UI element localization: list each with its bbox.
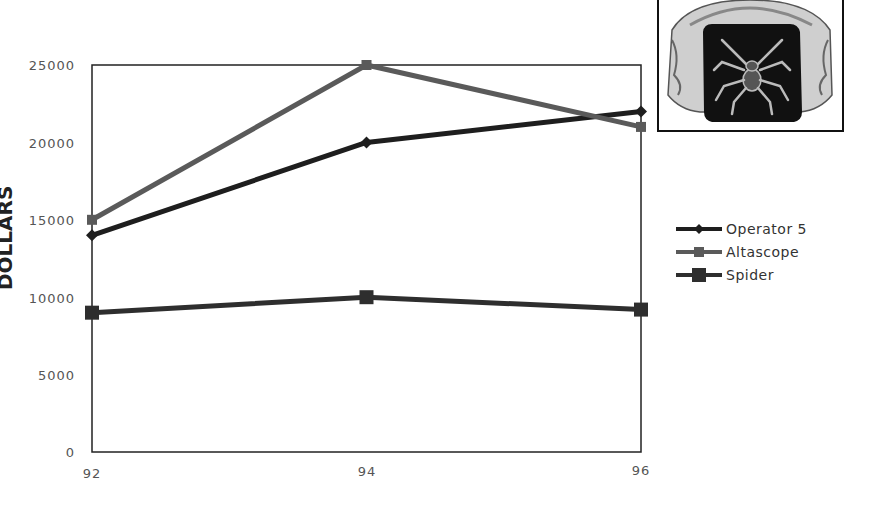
large-square-marker-icon — [692, 268, 706, 282]
svg-text:DOLLARS: DOLLARS — [0, 186, 17, 290]
data-point-marker — [361, 136, 373, 148]
spider-ring-image — [658, 0, 843, 131]
y-tick-label: 25000 — [29, 58, 75, 73]
y-tick-label: 5000 — [38, 368, 75, 383]
title-fragment: y p — [30, 0, 334, 1]
x-tick-label: 96 — [632, 463, 651, 478]
svg-text:Spider: Spider — [726, 267, 774, 283]
y-tick-label: 0 — [66, 445, 75, 460]
data-point-marker — [634, 303, 648, 317]
square-marker-icon — [694, 247, 704, 257]
series-layer — [85, 60, 648, 320]
legend: Operator 5 Altascope Spider — [676, 221, 807, 283]
legend-item-operator-5: Operator 5 — [676, 221, 807, 237]
y-axis-label: DOLLARS — [0, 186, 17, 290]
y-tick-label: 20000 — [29, 136, 75, 151]
svg-text:Operator 5: Operator 5 — [726, 221, 807, 237]
line-chart: y p DOLLARS 25000 20000 15000 10000 5000… — [0, 0, 876, 509]
x-axis-ticks: 92 94 96 — [83, 463, 651, 481]
data-point-marker — [636, 122, 646, 132]
series-spider — [85, 290, 648, 319]
x-tick-label: 92 — [83, 466, 102, 481]
svg-text:Altascope: Altascope — [726, 244, 799, 260]
data-point-marker — [85, 306, 99, 320]
y-tick-label: 15000 — [29, 213, 75, 228]
svg-text:y: y — [30, 0, 48, 1]
y-axis-ticks: 25000 20000 15000 10000 5000 0 — [29, 58, 75, 460]
diamond-marker-icon — [694, 224, 704, 234]
data-point-marker — [87, 215, 97, 225]
y-tick-label: 10000 — [29, 291, 75, 306]
legend-item-altascope: Altascope — [676, 244, 799, 260]
svg-text:p: p — [315, 0, 334, 1]
data-point-marker — [86, 229, 98, 241]
x-tick-label: 94 — [358, 464, 377, 479]
data-point-marker — [360, 290, 374, 304]
data-point-marker — [635, 105, 647, 117]
data-point-marker — [362, 60, 372, 70]
legend-item-spider: Spider — [676, 267, 774, 283]
